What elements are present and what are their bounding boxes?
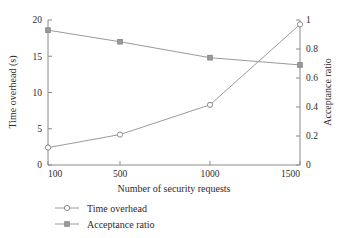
data-point-marker (117, 132, 122, 137)
x-axis-title: Number of security requests (117, 183, 230, 194)
data-point-marker (118, 39, 123, 44)
left-tick-label: 20 (33, 15, 43, 25)
left-tick-label: 0 (37, 160, 42, 170)
x-tick-label: 100 (48, 169, 63, 179)
line-chart: 05101520 00.20.40.60.81 10050010001500 N… (0, 0, 340, 238)
right-tick-label: 1 (306, 15, 311, 25)
left-tick-label: 15 (33, 52, 43, 62)
x-tick-label: 500 (113, 169, 128, 179)
legend-marker-open-circle (64, 205, 69, 210)
data-point-marker (207, 102, 212, 107)
right-tick-label: 0.6 (306, 73, 318, 83)
data-point-marker (298, 63, 303, 68)
legend-label-1: Acceptance ratio (87, 219, 154, 230)
x-tick-label: 1000 (201, 169, 220, 179)
left-tick-label: 10 (33, 88, 43, 98)
y-axis-title: Time overhead (s) (7, 56, 19, 129)
right-tick-label: 0.4 (306, 102, 318, 112)
data-point-marker (45, 145, 50, 150)
secondary-y-axis-title: Acceptance ratio (322, 58, 333, 125)
right-tick-label: 0.8 (306, 44, 318, 54)
legend-label-0: Time overhead (87, 203, 147, 214)
right-tick-label: 0 (306, 160, 311, 170)
x-tick-label: 1500 (281, 169, 300, 179)
chart-figure: 05101520 00.20.40.60.81 10050010001500 N… (0, 0, 340, 238)
data-point-marker (208, 55, 213, 60)
right-tick-label: 0.2 (306, 131, 318, 141)
data-point-marker (46, 28, 51, 33)
chart-background (0, 0, 340, 238)
data-point-marker (297, 22, 302, 27)
left-tick-label: 5 (37, 124, 42, 134)
legend-marker-filled-square (65, 222, 70, 227)
